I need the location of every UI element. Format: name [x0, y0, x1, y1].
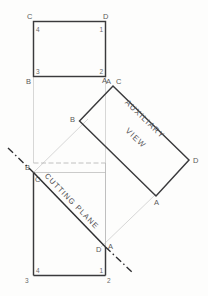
top-rect-label-b: B — [26, 77, 31, 86]
top-rect-label-d: D — [103, 12, 109, 21]
aux-label-d: D — [193, 156, 199, 165]
top-rect-number-1: 1 — [100, 26, 104, 33]
aux-label-b: B — [70, 115, 75, 124]
drawing-sheet: C D B A 4 1 3 2 AUXILIARY VIEW C A B D A — [0, 0, 208, 296]
projection-line-to-aux-b — [34, 119, 89, 173]
front-rect-number-1: 1 — [100, 267, 104, 274]
cutting-plane-line — [34, 173, 106, 248]
top-rect-number-2: 2 — [100, 68, 104, 75]
front-rect-label-b: B — [25, 163, 30, 172]
front-rect-number-4: 4 — [36, 267, 40, 274]
auxiliary-view-label-line2: VIEW — [124, 126, 148, 150]
projection-line-to-aux-a — [101, 194, 156, 247]
top-rect-number-3: 3 — [36, 68, 40, 75]
front-rect-label-d: D — [96, 245, 102, 254]
auxiliary-view-group: AUXILIARY VIEW C A B D A — [70, 76, 199, 207]
aux-label-a: A — [154, 198, 159, 207]
aux-label-c: C — [116, 77, 122, 86]
top-rect-number-4: 4 — [36, 26, 40, 33]
aux-label-projected-a: A — [102, 76, 107, 85]
front-rect-number-2: 2 — [107, 277, 111, 284]
cutting-plane-extension-upper-left — [8, 148, 34, 173]
top-rectangle — [34, 22, 106, 77]
front-rect-number-3: 3 — [25, 277, 29, 284]
top-view-group: C D B A 4 1 3 2 — [26, 12, 111, 86]
top-rect-label-c: C — [27, 12, 33, 21]
cutting-plane-extension-lower-right — [106, 247, 133, 272]
cutting-plane-label: CUTTING PLANE — [43, 171, 101, 231]
